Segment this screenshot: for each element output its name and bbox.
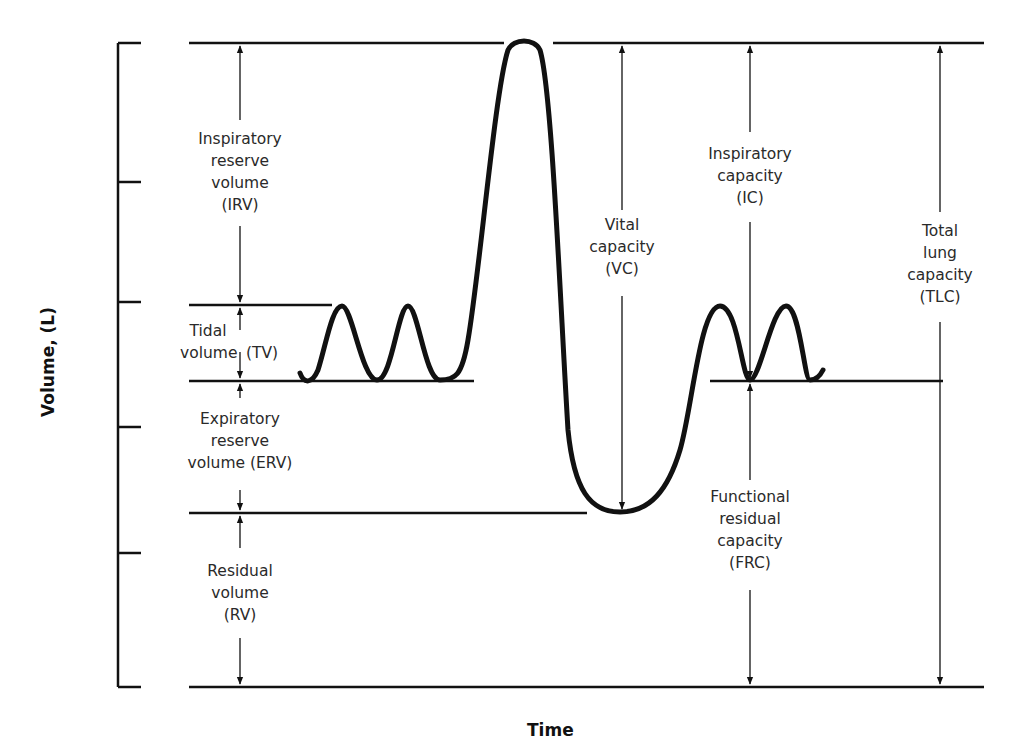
tv-label-left: Tidal volume [180,320,236,364]
spirogram-diagram [0,0,1014,740]
tv-label-right: (TV) [246,342,278,364]
vc-label: Vital capacity (VC) [580,214,664,280]
irv-label: Inspiratory reserve volume (IRV) [190,128,290,216]
y-axis [118,43,141,687]
erv-label: Expiratory reserve volume (ERV) [178,408,302,474]
frc-label: Functional residual capacity (FRC) [700,486,800,574]
ic-label: Inspiratory capacity (IC) [700,143,800,209]
rv-label: Residual volume (RV) [192,560,288,626]
measurement-arrows [240,46,940,684]
x-axis-title: Time [527,720,574,740]
tlc-label: Total lung capacity (TLC) [900,220,980,308]
breathing-trace [300,41,823,512]
y-axis-title: Volume, (L) [38,302,58,422]
level-lines [189,43,984,687]
